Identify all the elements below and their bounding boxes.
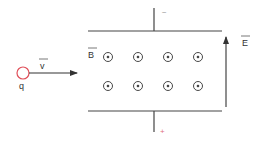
magnetic-field-label: B [88,50,94,60]
top-plate [88,8,222,31]
top-plate-polarity: − [162,8,167,17]
magnetic-field-symbols [104,53,203,91]
charge-label: q [19,81,24,91]
b-out-of-page-icon [104,82,113,91]
velocity-label: v [40,61,45,71]
bottom-plate [88,111,222,132]
bottom-plate-polarity: + [160,127,165,136]
velocity-selector-diagram: − + E B q v [0,0,264,145]
b-out-of-page-icon [164,82,173,91]
b-out-of-page-icon [164,53,173,62]
b-out-of-page-icon [104,53,113,62]
b-out-of-page-icon [194,82,203,91]
electric-field-label: E [242,38,248,48]
b-out-of-page-icon [134,53,143,62]
charge-particle-icon [17,67,29,79]
b-out-of-page-icon [134,82,143,91]
b-out-of-page-icon [194,53,203,62]
